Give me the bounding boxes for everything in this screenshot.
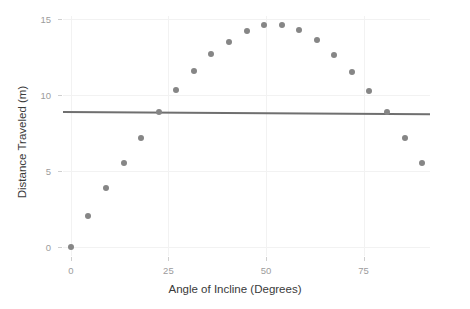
data-point xyxy=(173,87,179,93)
x-tick-label: 50 xyxy=(246,265,286,276)
data-point xyxy=(103,185,109,191)
data-point xyxy=(68,244,74,250)
gridline-horizontal xyxy=(63,19,430,20)
data-point xyxy=(279,22,285,28)
x-tick-mark xyxy=(71,257,72,261)
data-point xyxy=(156,109,162,115)
data-point xyxy=(85,213,91,219)
x-tick-label: 25 xyxy=(148,265,188,276)
y-tick-label: 0 xyxy=(11,241,51,252)
data-point xyxy=(402,135,408,141)
x-tick-mark xyxy=(168,257,169,261)
data-point xyxy=(419,160,425,166)
data-point xyxy=(121,160,127,166)
data-point xyxy=(314,37,320,43)
gridline-horizontal xyxy=(63,171,430,172)
gridline-horizontal xyxy=(63,247,430,248)
gridline-horizontal xyxy=(63,95,430,96)
data-point xyxy=(208,51,214,57)
data-point xyxy=(331,52,337,58)
data-point xyxy=(191,68,197,74)
gridline-vertical xyxy=(266,16,267,256)
scatter-chart: 0510150255075 Angle of Incline (Degrees)… xyxy=(0,0,470,309)
data-point xyxy=(349,69,355,75)
data-point xyxy=(226,39,232,45)
gridline-vertical xyxy=(364,16,365,256)
x-tick-mark xyxy=(364,257,365,261)
y-tick-mark xyxy=(58,247,62,248)
y-tick-mark xyxy=(58,171,62,172)
gridline-vertical xyxy=(71,16,72,256)
reference-line xyxy=(63,111,430,115)
gridline-vertical xyxy=(168,16,169,256)
x-tick-mark xyxy=(266,257,267,261)
plot-area xyxy=(63,16,430,256)
x-tick-label: 75 xyxy=(344,265,384,276)
x-axis-title: Angle of Incline (Degrees) xyxy=(0,283,470,295)
data-point xyxy=(366,88,372,94)
y-tick-mark xyxy=(58,19,62,20)
data-point xyxy=(244,28,250,34)
data-point xyxy=(138,135,144,141)
y-axis-title: Distance Traveled (m) xyxy=(16,52,28,232)
x-tick-label: 0 xyxy=(51,265,91,276)
y-tick-mark xyxy=(58,95,62,96)
data-point xyxy=(296,27,302,33)
y-tick-label: 15 xyxy=(11,14,51,25)
